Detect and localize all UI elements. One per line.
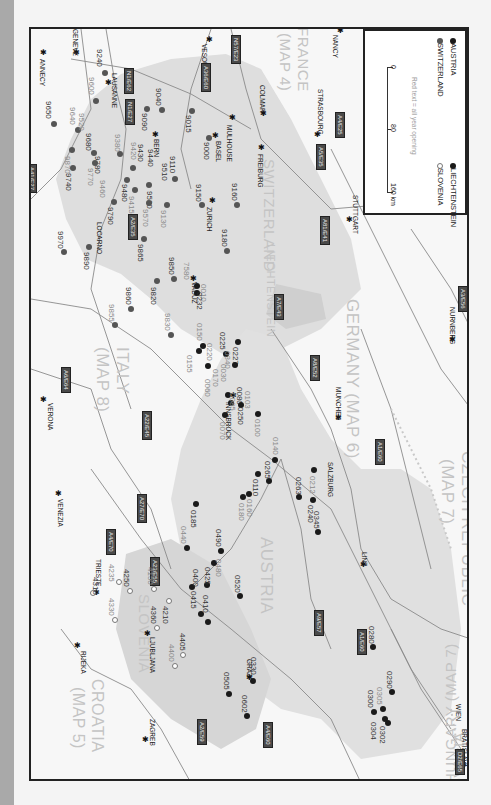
site-code: 0602 [240,695,248,713]
site-code: 9150 [194,184,202,202]
switzerland-site-pin[interactable] [168,332,174,338]
site-code: 0290 [385,671,393,689]
road-shield: A2/E35 [128,214,138,240]
austria-site-pin[interactable] [232,362,238,368]
switzerland-site-pin[interactable] [132,187,138,193]
road-shield: A36/E60 [201,63,211,92]
austria-site-pin[interactable] [218,548,224,554]
austria-site-pin[interactable] [184,545,190,551]
site-code: 9380 [113,134,121,152]
site-code: 0155 [185,355,193,373]
country-sub-france: (MAP 4) [278,33,293,91]
switzerland-site-pin[interactable] [159,107,165,113]
austria-site-pin[interactable] [255,471,261,477]
country-label-liechtenstein: LIECHTENSTEIN [265,244,276,337]
site-code: 9830 [163,313,171,331]
switzerland-site-pin[interactable] [224,248,230,254]
country-sub-italy: (MAP 8) [94,347,111,413]
road-shield: N1/E62 [124,68,134,94]
switzerland-site-pin[interactable] [234,202,240,208]
austria-site-pin[interactable] [255,411,261,417]
switzerland-site-pin[interactable] [146,200,152,206]
road-shield: A2/E59 [197,719,207,745]
site-code: 9130 [159,210,167,228]
switzerland-site-pin[interactable] [86,244,92,250]
switzerland-site-pin[interactable] [171,276,177,282]
austria-site-pin[interactable] [315,529,321,535]
austria-site-pin[interactable] [246,491,252,497]
austria-site-pin[interactable] [380,706,386,712]
site-code: 9865 [136,244,144,262]
legend-label-austria: AUSTRIA [450,43,458,76]
slovenia-site-pin[interactable] [112,617,118,623]
switzerland-site-pin[interactable] [146,182,152,188]
site-code: 0305 [375,687,383,705]
site-code: 0085 [228,393,236,411]
switzerland-site-pin[interactable] [112,322,118,328]
switzerland-site-pin[interactable] [69,147,75,153]
site-code: 4310 [91,577,99,595]
site-code: 9000 [202,142,210,160]
austria-site-pin[interactable] [310,497,316,503]
switzerland-site-pin[interactable] [128,306,134,312]
switzerland-site-pin[interactable] [51,121,57,127]
road-shield: A1/E60 [357,629,367,655]
switzerland-site-pin[interactable] [92,160,98,166]
switzerland-site-pin[interactable] [206,135,212,141]
city-marker-icon: ✱ [212,132,219,140]
slovenia-site-pin[interactable] [172,663,178,669]
site-code: 0505 [222,672,230,690]
site-code: 9680 [84,133,92,151]
austria-site-pin[interactable] [193,501,199,507]
switzerland-site-pin[interactable] [172,176,178,182]
site-code: 9015 [184,115,192,133]
page-edge-strip [0,0,14,805]
switzerland-site-pin[interactable] [130,165,136,171]
switzerland-site-pin[interactable] [124,177,130,183]
slovenia-site-pin[interactable] [166,598,172,604]
switzerland-site-pin[interactable] [164,202,170,208]
austria-site-pin[interactable] [222,412,228,418]
austria-site-pin[interactable] [311,467,317,473]
site-code: 9570 [141,209,149,227]
switzerland-site-pin[interactable] [189,108,195,114]
city-label-nurnberg: NURNBERG [449,307,456,344]
city-label-venezia: VENEZIA [57,499,64,527]
switzerland-site-pin[interactable] [141,236,147,242]
austria-site-pin[interactable] [371,709,377,715]
austria-site-pin[interactable] [205,619,211,625]
slovenia-site-pin[interactable] [127,588,133,594]
austria-site-pin[interactable] [370,644,376,650]
austria-site-pin[interactable] [196,348,202,354]
austria-site-pin[interactable] [272,457,278,463]
slovenia-site-pin[interactable] [154,625,160,631]
switzerland-site-pin[interactable] [61,249,67,255]
switzerland-site-pin[interactable] [70,165,76,171]
site-code: 9520 [77,113,85,131]
austria-site-pin[interactable] [226,691,232,697]
switzerland-site-pin[interactable] [154,278,160,284]
city-label-stuttgart: STUTTGART [352,195,359,234]
slovenia-site-pin[interactable] [151,586,157,592]
austria-site-pin[interactable] [237,593,243,599]
city-label-nancy: NANCY [332,35,339,58]
site-code: 0400 [191,569,199,587]
road-shield: A41/E27 [29,164,37,193]
city-label-locarno: LOCARNO [96,222,103,254]
city-label-verona: VERONA [47,403,54,430]
road-shield: A6/E64 [61,367,71,393]
switzerland-site-pin[interactable] [144,106,150,112]
switzerland-site-pin[interactable] [111,199,117,205]
switzerland-site-pin[interactable] [102,70,108,76]
site-code: 4150 [146,567,154,585]
switzerland-site-pin[interactable] [93,98,99,104]
switzerland-site-pin[interactable] [199,202,205,208]
austria-site-pin[interactable] [244,713,250,719]
site-code: 0212 [308,476,316,494]
slovenia-site-pin[interactable] [180,652,186,658]
austria-site-pin[interactable] [240,494,246,500]
road-shield: D2/E65 [455,749,465,775]
austria-site-pin[interactable] [235,339,241,345]
austria-site-pin[interactable] [250,678,256,684]
austria-site-pin[interactable] [389,689,395,695]
